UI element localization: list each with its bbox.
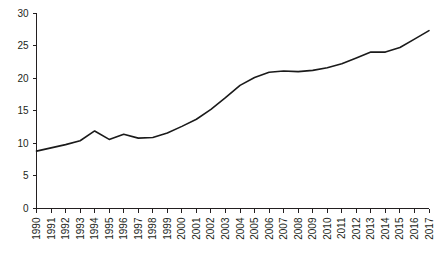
x-tick-label: 1996 — [118, 217, 129, 240]
x-tick-label: 2017 — [424, 217, 434, 240]
x-tick-label: 2000 — [176, 217, 187, 240]
data-series-group — [37, 31, 430, 152]
x-tick-label: 1994 — [89, 217, 100, 240]
y-tick-label: 15 — [17, 105, 29, 116]
line-chart: 051015202530 199019911992199319941995199… — [0, 0, 434, 256]
x-tick-label: 1998 — [147, 217, 158, 240]
y-axis: 051015202530 — [17, 8, 36, 215]
x-tick-label: 1995 — [104, 217, 115, 240]
x-tick-label: 2005 — [249, 217, 260, 240]
x-tick-label: 1999 — [162, 217, 173, 240]
y-tick-label: 0 — [23, 203, 29, 214]
x-tick-label: 2008 — [293, 217, 304, 240]
x-tick-label: 2016 — [409, 217, 420, 240]
x-tick-label: 2009 — [307, 217, 318, 240]
x-axis: 1990199119921993199419951996199719981999… — [31, 209, 434, 240]
chart-canvas: 051015202530 199019911992199319941995199… — [0, 0, 434, 256]
x-tick-label: 2013 — [365, 217, 376, 240]
x-tick-label: 2010 — [322, 217, 333, 240]
x-tick-label: 1993 — [75, 217, 86, 240]
x-tick-label: 1991 — [46, 217, 57, 240]
series-line-value — [37, 31, 430, 152]
y-tick-label: 20 — [17, 73, 29, 84]
y-tick-label: 5 — [23, 170, 29, 181]
x-tick-label: 2014 — [380, 217, 391, 240]
x-tick-label: 2011 — [336, 217, 347, 239]
x-tick-label: 2002 — [205, 217, 216, 240]
y-tick-label: 30 — [17, 8, 29, 19]
x-tick-label: 1992 — [60, 217, 71, 240]
y-tick-label: 25 — [17, 40, 29, 51]
x-tick-label: 2012 — [351, 217, 362, 240]
x-tick-label: 2006 — [264, 217, 275, 240]
x-tick-label: 1990 — [31, 217, 42, 240]
x-tick-label: 1997 — [133, 217, 144, 240]
x-tick-label: 2004 — [235, 217, 246, 240]
x-tick-label: 2007 — [278, 217, 289, 240]
x-tick-label: 2001 — [191, 217, 202, 240]
y-tick-label: 10 — [17, 138, 29, 149]
x-tick-label: 2015 — [394, 217, 405, 240]
x-tick-label: 2003 — [220, 217, 231, 240]
